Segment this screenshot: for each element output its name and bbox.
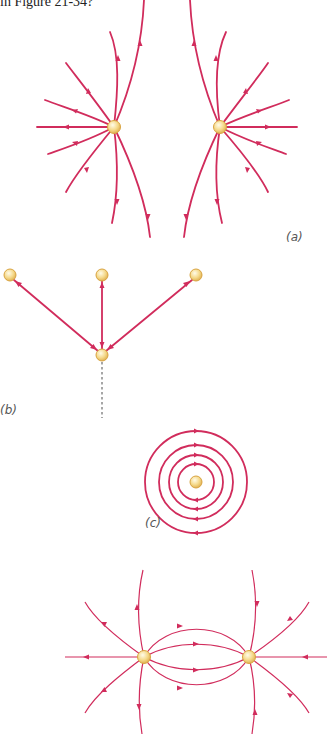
panel-c-label: (c) bbox=[145, 516, 161, 530]
charge-c bbox=[190, 476, 202, 488]
charge-a-left bbox=[108, 121, 121, 134]
charge-d-left bbox=[138, 651, 151, 664]
field-lines-figure: (a) (b) bbox=[0, 0, 329, 734]
panel-a-label: (a) bbox=[286, 230, 303, 244]
panel-a: (a) bbox=[37, 0, 303, 244]
panel-b-label: (b) bbox=[0, 403, 17, 417]
panel-c: (c) bbox=[145, 429, 247, 536]
charge-d-right bbox=[243, 651, 256, 664]
panel-b: (b) bbox=[0, 269, 202, 418]
charge-a-right bbox=[214, 121, 227, 134]
charge-b-bottom bbox=[96, 349, 108, 361]
panel-d bbox=[65, 570, 327, 734]
charge-b-right bbox=[190, 269, 202, 281]
charge-b-left bbox=[4, 269, 16, 281]
charge-b-middle bbox=[96, 269, 108, 281]
